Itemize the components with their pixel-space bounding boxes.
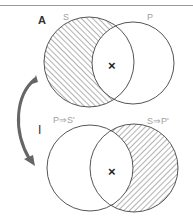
curved-arrow-icon xyxy=(18,75,38,166)
set-label-s-implies-p: S⇒P' xyxy=(147,117,169,126)
existence-marker-top: × xyxy=(108,59,116,72)
set-label-p: P xyxy=(147,13,153,22)
venn-diagram xyxy=(0,0,193,221)
set-label-p-implies-s: P⇒S' xyxy=(53,116,75,125)
existence-marker-bottom: × xyxy=(108,165,116,178)
circle-p xyxy=(92,22,174,104)
panel-label-a: A xyxy=(38,15,46,26)
set-label-s: S xyxy=(63,13,69,22)
panel-label-i: I xyxy=(38,124,41,136)
